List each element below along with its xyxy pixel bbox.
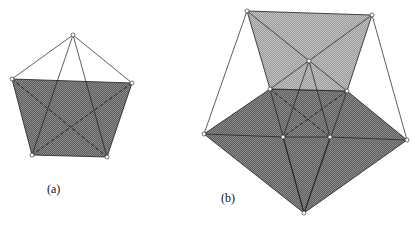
shaded-face (12, 79, 132, 157)
polytope-diagram (0, 0, 415, 226)
light-face (247, 11, 372, 91)
vertex-marker (245, 9, 249, 13)
vertex-marker (370, 13, 374, 17)
vertex-marker (302, 211, 306, 215)
vertex-marker (130, 81, 134, 85)
figure-a (10, 33, 134, 159)
vertex-marker (30, 153, 34, 157)
figure-a-label: (a) (47, 182, 60, 197)
vertex-marker (10, 77, 14, 81)
vertex-marker (105, 155, 109, 159)
vertex-marker (71, 33, 75, 37)
vertex-marker (307, 59, 311, 63)
figure-b (202, 9, 409, 215)
figure-b-label: (b) (221, 191, 235, 206)
edge (73, 35, 132, 83)
vertex-marker (405, 138, 409, 142)
vertex-marker (345, 89, 349, 93)
vertex-marker (328, 135, 332, 139)
edge (12, 35, 73, 79)
vertex-marker (268, 87, 272, 91)
vertex-marker (202, 132, 206, 136)
vertex-marker (281, 135, 285, 139)
